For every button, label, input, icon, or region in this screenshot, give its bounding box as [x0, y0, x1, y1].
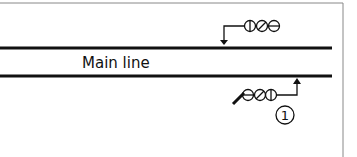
track-label: Main line	[82, 54, 150, 72]
lower-signal-icon	[233, 78, 301, 104]
track-diagram: Main line 1	[0, 0, 357, 157]
frame	[0, 3, 343, 157]
callout-number: 1	[281, 108, 289, 123]
upper-signal-icon	[220, 21, 280, 46]
callout-number-badge: 1	[276, 106, 294, 124]
